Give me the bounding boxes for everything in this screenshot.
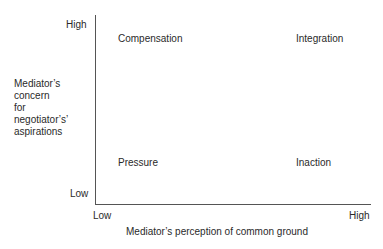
x-axis-title: Mediator’s perception of common ground bbox=[126, 226, 308, 237]
y-tick-low: Low bbox=[70, 188, 88, 199]
quadrant-label-integration: Integration bbox=[296, 33, 343, 44]
quadrant-label-compensation: Compensation bbox=[118, 33, 182, 44]
y-axis-title-line: concern bbox=[14, 90, 68, 102]
y-tick-high: High bbox=[66, 19, 87, 30]
y-axis-line bbox=[95, 15, 96, 205]
y-axis-title-line: for bbox=[14, 102, 68, 114]
y-axis-title-line: negotiator’s’ bbox=[14, 114, 68, 126]
x-axis-line bbox=[95, 204, 371, 205]
quadrant-label-pressure: Pressure bbox=[118, 157, 158, 168]
quadrant-label-inaction: Inaction bbox=[296, 157, 331, 168]
y-axis-title-line: Mediator’s bbox=[14, 78, 68, 90]
x-tick-low: Low bbox=[93, 210, 111, 221]
y-axis-title-line: aspirations bbox=[14, 126, 68, 138]
y-axis-title: Mediator’s concern for negotiator’s’ asp… bbox=[14, 78, 68, 138]
x-tick-high: High bbox=[349, 210, 370, 221]
